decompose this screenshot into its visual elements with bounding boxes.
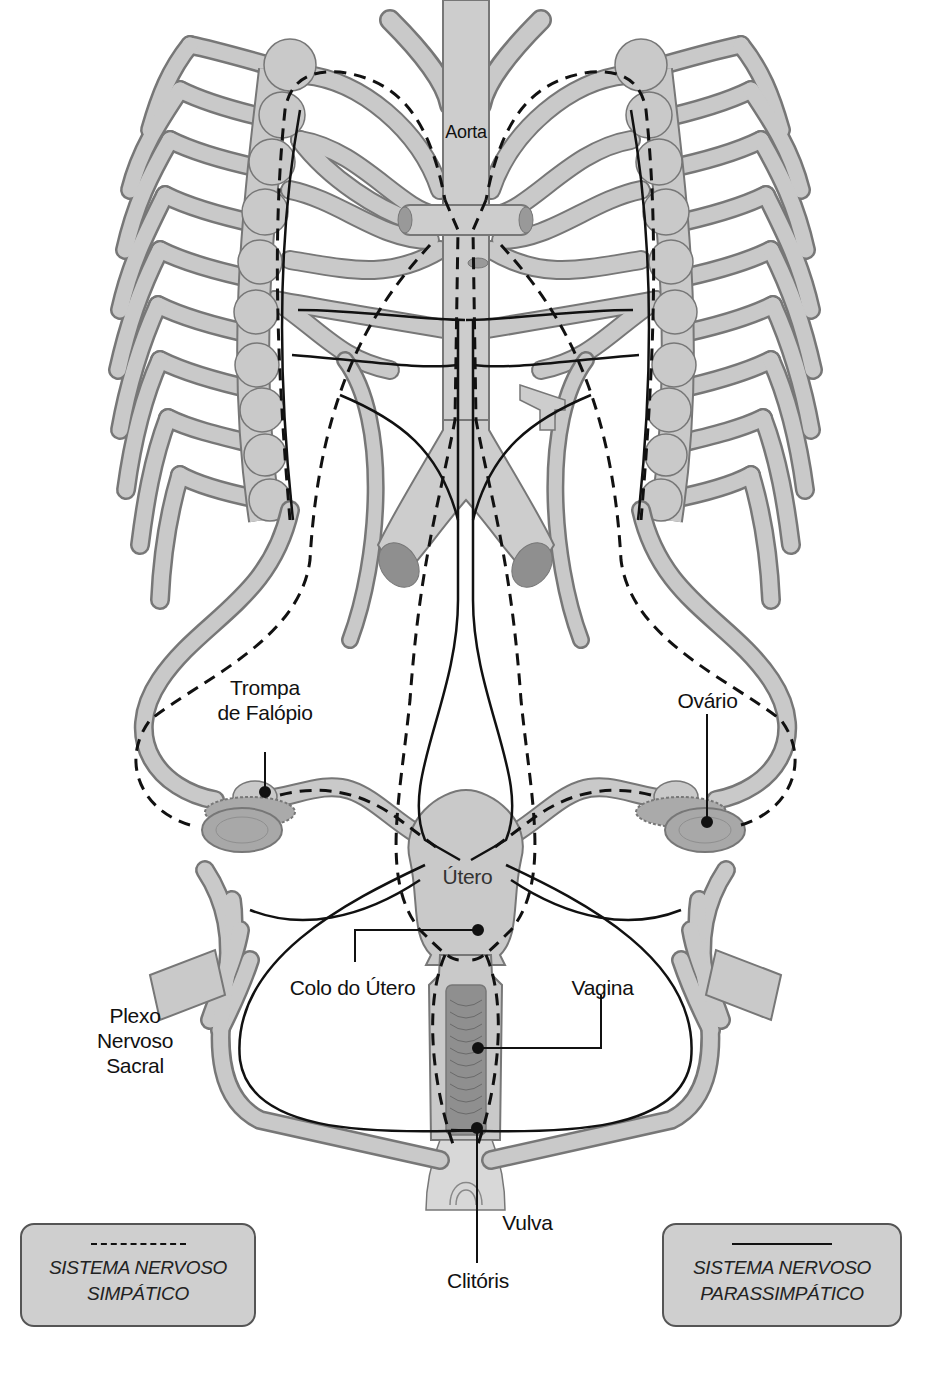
label-trompa-line1: Trompa [200, 675, 330, 700]
label-plexo-nervoso-sacral: Plexo Nervoso Sacral [90, 1003, 180, 1078]
label-trompa-line2: de Falópio [200, 700, 330, 725]
label-vulva: Vulva [495, 1210, 560, 1235]
label-ovario: Ovário [665, 688, 750, 713]
label-plexo-line1: Plexo [90, 1003, 180, 1028]
legend-sympathetic: SISTEMA NERVOSO SIMPÁTICO [20, 1223, 256, 1327]
legend-dashed-line-icon [91, 1243, 186, 1245]
label-colo-do-utero: Colo do Útero [285, 975, 420, 1000]
legend-sympathetic-line1: SISTEMA NERVOSO [22, 1255, 254, 1281]
legend-parasympathetic: SISTEMA NERVOSO PARASSIMPÁTICO [662, 1223, 902, 1327]
label-vagina: Vagina [565, 975, 640, 1000]
uterus-group [202, 781, 745, 1210]
aorta [370, 0, 565, 595]
label-plexo-line3: Sacral [90, 1053, 180, 1078]
legend-parasympathetic-line1: SISTEMA NERVOSO [664, 1255, 900, 1281]
label-aorta: Aorta [440, 120, 492, 145]
legend-sympathetic-line2: SIMPÁTICO [22, 1281, 254, 1307]
label-utero: Útero [430, 864, 505, 889]
anatomy-diagram [0, 0, 931, 1373]
legend-parasympathetic-line2: PARASSIMPÁTICO [664, 1281, 900, 1307]
legend-solid-line-icon [732, 1243, 832, 1245]
label-plexo-line2: Nervoso [90, 1028, 180, 1053]
label-trompa-de-falopio: Trompa de Falópio [200, 675, 330, 725]
label-clitoris: Clitóris [438, 1268, 518, 1293]
